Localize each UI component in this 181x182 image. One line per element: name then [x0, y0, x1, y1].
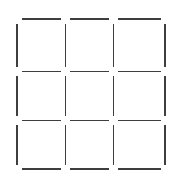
grid-figure: [0, 0, 181, 182]
grid-canvas: [0, 0, 181, 182]
figure-background: [0, 0, 181, 182]
